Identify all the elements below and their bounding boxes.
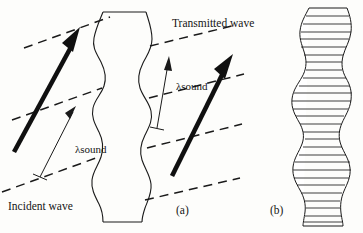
wavelength-label-transmitted: λsound	[176, 81, 208, 92]
incident-wave-label: Incident wave	[8, 201, 73, 213]
panel-b-caption: (b)	[270, 205, 283, 217]
transmitted-wavefront-1	[145, 178, 240, 200]
caliper-incident-line	[40, 112, 73, 177]
panel-a-medium-slab	[92, 12, 152, 222]
panel-b-layer-stack	[292, 8, 352, 226]
caliper-transmitted-line	[157, 64, 168, 128]
incident-arrow-shaft	[14, 47, 71, 152]
figure-drawing	[0, 0, 363, 233]
medium-right-boundary	[139, 12, 152, 222]
transmitted-arrow-head	[214, 54, 233, 79]
medium-left-boundary	[92, 12, 106, 222]
caliper-transmitted-arrowhead	[164, 56, 172, 71]
figure-container: Incident wave Transmitted wave λsound λs…	[0, 0, 363, 233]
incident-wavefront-2	[12, 88, 102, 120]
incident-wavefront-1	[2, 158, 96, 192]
caliper-incident-arrowhead	[65, 106, 76, 119]
transmitted-wave-arrow	[172, 54, 233, 176]
incident-wave-arrow	[14, 27, 80, 152]
panel-a-caption: (a)	[176, 205, 189, 217]
wavelength-label-incident: λsound	[75, 144, 107, 155]
wavelength-caliper-incident	[33, 106, 76, 180]
transmitted-wave-label: Transmitted wave	[172, 18, 254, 30]
